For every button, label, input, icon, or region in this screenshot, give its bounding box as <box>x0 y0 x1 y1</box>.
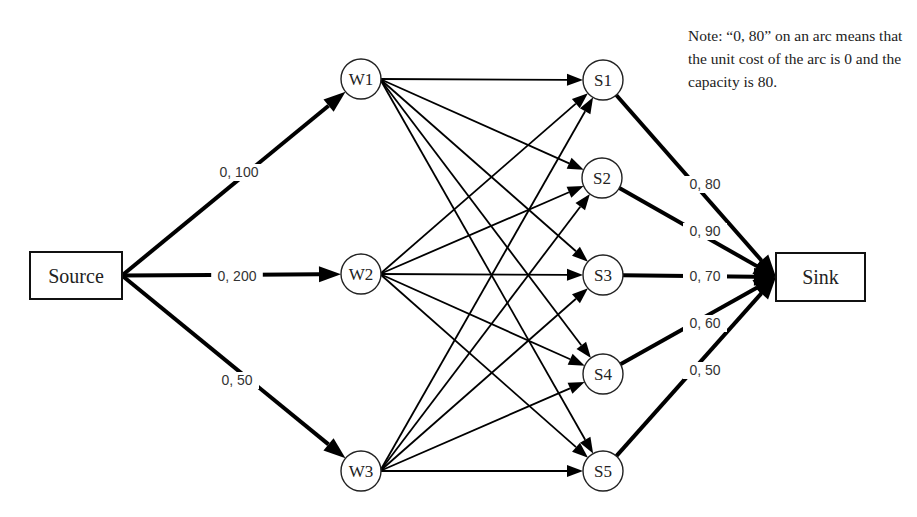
arrowhead-icon <box>568 354 585 366</box>
arrowhead-icon <box>575 194 589 210</box>
arrowhead-icon <box>577 342 591 358</box>
arc-source-W1 <box>122 106 329 276</box>
note-text: Note: “0, 80” on an arc means that the u… <box>688 24 917 93</box>
arrowhead-icon <box>567 186 584 198</box>
arrowhead-icon <box>319 266 341 282</box>
source-label: Source <box>48 265 104 287</box>
node-W3: W3 <box>341 451 381 491</box>
node-S3: S3 <box>583 255 623 295</box>
arc-W1-S4 <box>380 79 581 345</box>
node-W1: W1 <box>341 59 381 99</box>
source-node: Source <box>30 252 122 299</box>
network-diagram: SourceSinkW1W2W3S1S2S3S4S5 0, 1000, 2000… <box>0 0 917 517</box>
node-label: W3 <box>349 462 374 481</box>
arc-label: 0, 60 <box>689 315 720 331</box>
arc-label: 0, 80 <box>689 176 720 192</box>
sink-node: Sink <box>776 253 865 301</box>
arc-W1-S2 <box>380 79 569 163</box>
node-label: S2 <box>593 169 611 188</box>
arc-W1-S3 <box>380 79 576 251</box>
arc-W1-S1 <box>380 79 567 80</box>
node-S2: S2 <box>582 158 622 198</box>
arc-W3-S1 <box>380 111 585 471</box>
node-label: W1 <box>349 70 374 89</box>
arrowhead-icon <box>567 465 583 477</box>
arrowhead-icon <box>567 269 583 281</box>
arc-label: 0, 50 <box>689 362 720 378</box>
arc-source-W3 <box>122 276 328 445</box>
arrowhead-icon <box>567 74 583 86</box>
arc-label: 0, 50 <box>221 372 252 388</box>
node-label: S5 <box>594 462 612 481</box>
arc-label: 0, 100 <box>220 164 259 180</box>
arc-W3-S2 <box>380 207 580 471</box>
arc-W3-S4 <box>380 388 570 471</box>
node-label: S1 <box>594 71 612 90</box>
node-S1: S1 <box>583 60 623 100</box>
arc-label: 0, 70 <box>689 268 720 284</box>
node-S5: S5 <box>583 451 623 491</box>
node-label: S4 <box>594 365 612 384</box>
node-label: S3 <box>594 266 612 285</box>
arc-label: 0, 200 <box>218 268 257 284</box>
node-S4: S4 <box>583 354 623 394</box>
node-W2: W2 <box>341 254 381 294</box>
arc-W1-S5 <box>380 79 585 440</box>
node-label: W2 <box>349 265 374 284</box>
sink-label: Sink <box>802 266 839 288</box>
arc-W2-S3 <box>380 274 567 275</box>
arrowhead-icon <box>568 382 585 394</box>
arc-W3-S3 <box>380 299 576 471</box>
arc-label: 0, 90 <box>689 223 720 239</box>
arrowhead-icon <box>567 158 584 170</box>
